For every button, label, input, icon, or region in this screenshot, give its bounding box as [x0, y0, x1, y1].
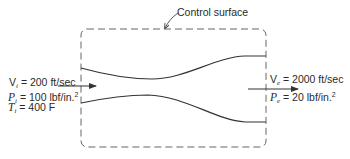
inlet-temperature-value: = 400 F	[19, 101, 55, 113]
inlet-temperature-subscript: i	[14, 107, 16, 115]
inlet-velocity-value: = 200 ft/sec	[21, 76, 76, 88]
exit-pressure-symbol: P	[270, 91, 277, 103]
inlet-pressure-exponent: 2	[75, 91, 79, 98]
exit-pressure-label: Pe = 20 lbf/in.2	[270, 89, 336, 107]
inlet-temperature-label: Ti = 400 F	[8, 101, 55, 117]
control-surface-label: Control surface	[177, 6, 248, 18]
exit-pressure-subscript: e	[277, 97, 280, 105]
exit-velocity-subscript: e	[277, 79, 280, 87]
nozzle-upper-wall	[81, 56, 266, 79]
control-surface-boundary	[81, 29, 266, 147]
exit-pressure-exponent: 2	[332, 91, 336, 98]
exit-velocity-symbol: V	[270, 73, 277, 85]
exit-velocity-value: = 2000 ft/sec	[283, 73, 343, 85]
inlet-velocity-symbol: V	[9, 76, 16, 88]
nozzle-lower-wall	[81, 95, 266, 122]
exit-velocity-label: Ve = 2000 ft/sec	[270, 73, 343, 89]
exit-pressure-value: = 20 lbf/in.	[283, 91, 332, 103]
